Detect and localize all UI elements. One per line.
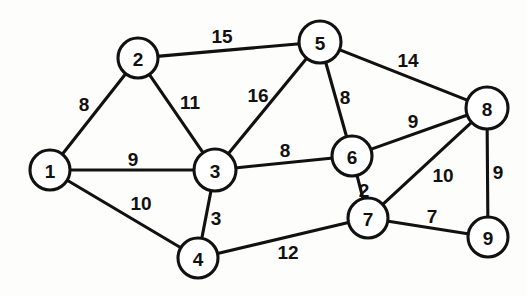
graph-node-7[interactable]: 7 xyxy=(348,198,388,238)
node-label-5: 5 xyxy=(315,33,326,54)
edge-weight-7-9: 7 xyxy=(427,206,438,227)
edge-2-3 xyxy=(149,74,204,154)
edge-weight-3-5: 16 xyxy=(247,85,268,106)
graph-canvas: 123456789 89101115168312814291079 xyxy=(0,0,527,296)
node-label-7: 7 xyxy=(363,209,374,230)
node-label-1: 1 xyxy=(45,161,56,182)
graph-node-9[interactable]: 9 xyxy=(468,217,508,257)
edge-7-8 xyxy=(382,122,472,206)
graph-node-8[interactable]: 8 xyxy=(466,87,508,129)
node-label-6: 6 xyxy=(347,147,358,168)
edge-weight-4-7: 12 xyxy=(277,242,298,263)
edge-weight-1-2: 8 xyxy=(79,94,90,115)
edge-weight-2-3: 11 xyxy=(180,92,201,113)
graph-node-3[interactable]: 3 xyxy=(194,149,236,191)
edge-weight-5-6: 8 xyxy=(340,87,351,108)
graph-diagram: 123456789 89101115168312814291079 xyxy=(0,0,527,296)
graph-node-5[interactable]: 5 xyxy=(299,21,341,63)
graph-node-1[interactable]: 1 xyxy=(30,150,70,190)
edge-8-9 xyxy=(487,128,488,218)
edge-1-4 xyxy=(66,180,181,249)
edge-weight-6-7: 2 xyxy=(359,180,370,201)
node-label-9: 9 xyxy=(483,228,494,249)
edge-1-2 xyxy=(62,73,127,155)
graph-node-6[interactable]: 6 xyxy=(332,136,372,176)
node-label-2: 2 xyxy=(133,49,144,70)
edge-weight-6-8: 9 xyxy=(408,111,419,132)
node-label-4: 4 xyxy=(193,249,204,270)
nodes-layer: 123456789 xyxy=(30,21,508,278)
edge-weight-3-6: 8 xyxy=(280,140,291,161)
node-label-8: 8 xyxy=(482,99,493,120)
edge-weight-5-8: 14 xyxy=(397,50,419,71)
edge-6-8 xyxy=(370,115,468,150)
edge-weight-2-5: 15 xyxy=(211,26,233,47)
edge-3-5 xyxy=(228,57,308,154)
edge-weight-1-3: 9 xyxy=(128,149,139,170)
edge-weight-1-4: 10 xyxy=(130,193,151,214)
edge-weight-8-9: 9 xyxy=(493,162,504,183)
edge-weight-7-8: 10 xyxy=(432,165,453,186)
graph-node-2[interactable]: 2 xyxy=(118,38,158,78)
edge-weight-3-4: 3 xyxy=(211,208,222,229)
node-label-3: 3 xyxy=(210,161,221,182)
graph-node-4[interactable]: 4 xyxy=(178,238,218,278)
